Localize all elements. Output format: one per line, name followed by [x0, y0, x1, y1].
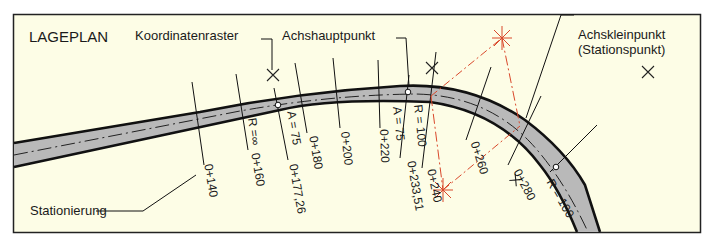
lageplan-figure: LAGEPLAN Koordinatenraster Achshauptpunk… — [0, 0, 713, 247]
plan-title: LAGEPLAN — [29, 29, 108, 44]
station-label: 0+200 — [339, 131, 354, 166]
station-label: 0+220 — [378, 129, 391, 163]
callout-achskleinpunkt: Achskleinpunkt — [578, 28, 665, 41]
callout-stationspunkt: (Stationspunkt) — [578, 43, 665, 56]
param-a-75: A = 75 — [391, 106, 407, 141]
callout-koordinatenraster: Koordinatenraster — [135, 29, 238, 42]
callout-achshauptpunkt: Achshauptpunkt — [282, 29, 375, 42]
param-r-infinite: R =∞ — [246, 117, 262, 146]
callout-stationierung: Stationierung — [30, 204, 107, 217]
